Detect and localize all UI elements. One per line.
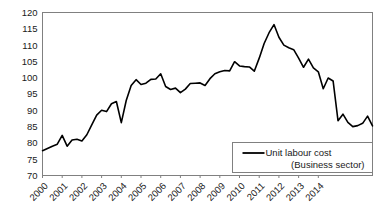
y-tick-label: 70 (27, 170, 38, 181)
x-tick-label: 2008 (185, 180, 208, 203)
x-tick-label: 2009 (204, 180, 227, 203)
chart-legend: Unit labour cost (Business sector) (233, 143, 373, 173)
y-tick-label: 115 (22, 23, 37, 34)
x-tick-label: 2000 (27, 180, 50, 203)
x-tick-label: 2004 (106, 180, 129, 203)
x-tick-label: 2001 (47, 180, 70, 203)
line-chart: 707580859095100105110115120 200020012002… (0, 0, 387, 214)
legend-label-secondary: (Business sector) (291, 159, 364, 170)
legend-label-primary: Unit labour cost (266, 147, 332, 158)
x-tick-label: 2002 (67, 180, 90, 203)
x-tick-label: 2010 (224, 180, 247, 203)
x-tick-label: 2012 (264, 180, 287, 203)
x-tick-label: 2005 (126, 180, 149, 203)
y-tick-label: 75 (27, 154, 38, 165)
y-tick-label: 85 (27, 121, 38, 132)
x-tick-label: 2011 (244, 180, 266, 202)
x-tick-label: 2013 (283, 180, 306, 203)
chart-container: 707580859095100105110115120 200020012002… (0, 0, 387, 214)
x-tick-label: 2003 (86, 180, 109, 203)
x-tick-label: 2014 (303, 180, 326, 203)
y-tick-label: 80 (27, 137, 38, 148)
y-tick-label: 90 (27, 105, 38, 116)
x-tick-label: 2007 (165, 180, 188, 203)
y-tick-label: 100 (22, 72, 38, 83)
y-tick-label: 95 (27, 88, 38, 99)
y-tick-label: 110 (22, 40, 37, 51)
x-tick-label: 2006 (145, 180, 168, 203)
x-axis-tick-labels: 2000200120022003200420052006200720082009… (27, 176, 326, 203)
y-tick-label: 105 (22, 56, 38, 67)
unit-labour-cost-line (43, 25, 373, 151)
y-tick-label: 120 (22, 7, 38, 18)
y-axis-tick-labels: 707580859095100105110115120 (22, 7, 38, 181)
